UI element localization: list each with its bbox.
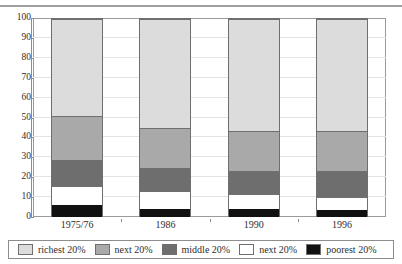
y-tick-label-100: 100 (3, 13, 31, 22)
y-tick-mark-40 (31, 137, 34, 138)
y-tick-mark-100 (31, 18, 34, 19)
x-tick-mark-1 (210, 219, 211, 222)
bar-segment-1986-poorest20 (140, 209, 190, 217)
x-tick-label-1990: 1990 (214, 219, 294, 230)
legend-label: next 20% (115, 244, 153, 255)
legend-item-middle20: middle 20% (162, 244, 231, 255)
bar-1996 (316, 18, 368, 217)
bar-segment-1986-richest20 (140, 19, 190, 128)
x-tick-mark-2 (298, 219, 299, 222)
y-tick-mark-30 (31, 157, 34, 158)
bar-segment-1986-middle20 (140, 168, 190, 191)
y-tick-mark-60 (31, 98, 34, 99)
bars-layer (33, 18, 386, 217)
bar-segment-1975-76-next20 (52, 186, 102, 205)
bar-segment-1990-richest20 (229, 19, 279, 131)
legend-label: middle 20% (182, 244, 231, 255)
y-tick-label-80: 80 (3, 53, 31, 62)
y-tick-label-90: 90 (3, 33, 31, 42)
y-tick-label-50: 50 (3, 113, 31, 122)
bar-segment-1975-76-richest20 (52, 19, 102, 116)
legend-item-poorest20: poorest 20% (306, 244, 376, 255)
y-tick-label-30: 30 (3, 152, 31, 161)
legend-swatch-icon (239, 244, 254, 255)
chart-legend: richest 20%next 20%middle 20%next 20%poo… (8, 240, 394, 259)
bar-segment-1996-middle20 (317, 171, 367, 197)
bar-segment-1986-next20 (140, 191, 190, 209)
bar-segment-1996-poorest20 (317, 210, 367, 217)
legend-item-richest20: richest 20% (18, 244, 86, 255)
bar-segment-1990-middle20 (229, 171, 279, 194)
y-tick-mark-10 (31, 197, 34, 198)
bar-segment-1990-poorest20 (229, 209, 279, 217)
legend-item-next20: next 20% (95, 244, 153, 255)
y-tick-label-70: 70 (3, 73, 31, 82)
bar-segment-1990-next20 (229, 131, 279, 172)
x-tick-mark-0 (121, 219, 122, 222)
y-tick-label-0: 0 (3, 212, 31, 221)
y-tick-label-20: 20 (3, 172, 31, 181)
bar-1990 (228, 18, 280, 217)
bar-segment-1996-richest20 (317, 19, 367, 131)
legend-label: next 20% (259, 244, 297, 255)
bar-1975-76 (51, 18, 103, 217)
y-tick-mark-80 (31, 58, 34, 59)
y-axis-labels: 0102030405060708090100 (0, 0, 31, 264)
x-tick-label-1986: 1986 (125, 219, 205, 230)
bar-segment-1996-next20 (317, 131, 367, 172)
bar-segment-1975-76-next20 (52, 116, 102, 160)
legend-swatch-icon (162, 244, 177, 255)
bar-segment-1990-next20 (229, 194, 279, 209)
x-tick-label-1975-76: 1975/76 (37, 219, 117, 230)
y-tick-mark-0 (31, 217, 34, 218)
y-tick-label-10: 10 (3, 192, 31, 201)
plot-area (33, 18, 386, 217)
x-tick-label-1996: 1996 (302, 219, 382, 230)
y-tick-label-60: 60 (3, 93, 31, 102)
legend-swatch-icon (18, 244, 33, 255)
chart-figure: 0102030405060708090100 1975/761986199019… (0, 0, 402, 264)
bar-segment-1975-76-poorest20 (52, 205, 102, 217)
bar-segment-1975-76-middle20 (52, 160, 102, 187)
y-tick-mark-50 (31, 118, 34, 119)
top-divider-rule (0, 5, 402, 7)
x-axis-labels: 1975/76198619901996 (33, 219, 386, 235)
legend-item-next20: next 20% (239, 244, 297, 255)
legend-swatch-icon (306, 244, 321, 255)
y-tick-mark-70 (31, 78, 34, 79)
y-tick-mark-90 (31, 38, 34, 39)
legend-label: richest 20% (38, 244, 86, 255)
legend-swatch-icon (95, 244, 110, 255)
bar-segment-1986-next20 (140, 128, 190, 169)
y-tick-mark-20 (31, 177, 34, 178)
legend-label: poorest 20% (326, 244, 376, 255)
bar-segment-1996-next20 (317, 197, 367, 210)
bar-1986 (139, 18, 191, 217)
y-tick-label-40: 40 (3, 132, 31, 141)
